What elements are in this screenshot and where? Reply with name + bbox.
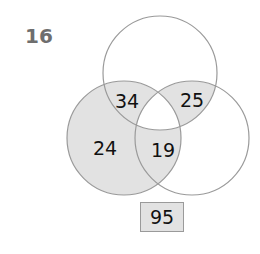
region-top-right-value: 25 [180,89,204,111]
region-left-right-value: 19 [151,139,175,161]
region-top-left-value: 34 [115,90,139,112]
answer-value: 95 [150,206,174,228]
answer-box: 95 [140,202,184,232]
region-left-only-value: 24 [93,137,117,159]
venn-diagram [0,0,260,254]
